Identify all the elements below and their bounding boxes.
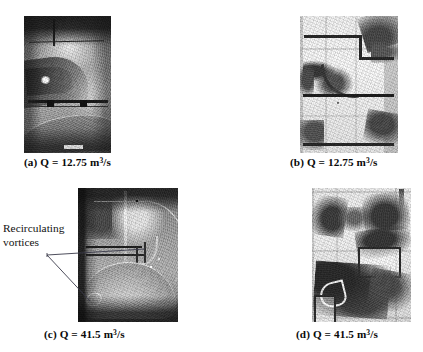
photo-panel-b bbox=[300, 16, 398, 153]
caption-a-equals: = bbox=[52, 156, 58, 168]
caption-a-unit-base: m bbox=[90, 156, 99, 168]
caption-b-unit-base: m bbox=[357, 156, 366, 168]
caption-d-equals: = bbox=[325, 328, 331, 340]
photo-panel-d bbox=[312, 188, 411, 322]
caption-d-value: 41.5 bbox=[334, 328, 354, 340]
caption-d-unit-denominator: /s bbox=[370, 328, 378, 340]
photo-panel-a bbox=[24, 16, 111, 153]
photo-panel-c bbox=[78, 188, 178, 322]
caption-a-unit-denominator: /s bbox=[103, 156, 111, 168]
caption-b-unit-denominator: /s bbox=[370, 156, 378, 168]
caption-d-label: (d) bbox=[296, 328, 310, 340]
caption-panel-c: (c) Q = 41.5 m3/s bbox=[44, 328, 125, 340]
caption-d-symbol: Q bbox=[313, 328, 322, 340]
caption-b-value: 12.75 bbox=[328, 156, 354, 168]
caption-panel-d: (d) Q = 41.5 m3/s bbox=[296, 328, 378, 340]
figure-root: (a) Q = 12.75 m3/s (b) Q = 12.75 m3/s (c… bbox=[0, 0, 423, 352]
caption-c-label: (c) bbox=[44, 328, 57, 340]
caption-panel-b: (b) Q = 12.75 m3/s bbox=[290, 156, 378, 168]
caption-c-unit-denominator: /s bbox=[117, 328, 125, 340]
annotation-line-1: Recirculating bbox=[3, 221, 79, 235]
caption-a-symbol: Q bbox=[40, 156, 49, 168]
caption-c-unit-base: m bbox=[104, 328, 113, 340]
annotation-line-2: vortices bbox=[3, 235, 79, 249]
caption-b-label: (b) bbox=[290, 156, 304, 168]
caption-b-equals: = bbox=[319, 156, 325, 168]
caption-c-value: 41.5 bbox=[81, 328, 101, 340]
caption-d-unit-base: m bbox=[357, 328, 366, 340]
caption-a-value: 12.75 bbox=[61, 156, 87, 168]
caption-b-symbol: Q bbox=[307, 156, 316, 168]
caption-a-label: (a) bbox=[24, 156, 37, 168]
caption-c-equals: = bbox=[71, 328, 77, 340]
caption-panel-a: (a) Q = 12.75 m3/s bbox=[24, 156, 111, 168]
annotation-recirculating-vortices: Recirculating vortices bbox=[3, 221, 79, 249]
caption-c-symbol: Q bbox=[60, 328, 69, 340]
